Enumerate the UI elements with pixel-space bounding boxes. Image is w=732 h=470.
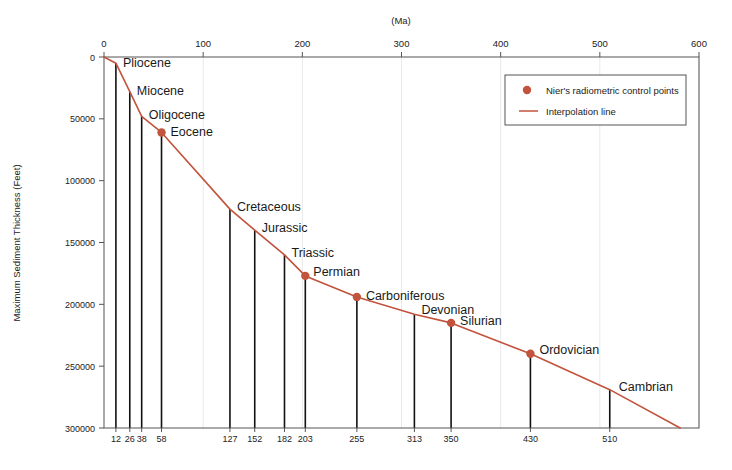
x-tick-label-bottom: 350	[444, 434, 459, 444]
chart-legend: Nier's radiometric control points Interp…	[505, 75, 686, 125]
period-label: Cretaceous	[237, 200, 301, 214]
y-tick-label: 300000	[65, 424, 95, 434]
legend-marker-dot-icon	[523, 86, 531, 94]
legend-label-control-points: Nier's radiometric control points	[546, 85, 679, 96]
control-point-marker	[447, 319, 455, 327]
legend-box	[505, 75, 686, 125]
period-label: Cambrian	[619, 380, 673, 394]
x-tick-label-bottom: 12	[111, 434, 121, 444]
y-tick-label: 50000	[70, 114, 95, 124]
period-label: Jurassic	[262, 221, 308, 235]
x-tick-label-bottom: 182	[277, 434, 292, 444]
x-axis-unit-label: (Ma)	[391, 15, 411, 26]
chart-background	[0, 0, 732, 470]
chart-svg: (Ma) Maximum Sediment Thickness (Feet) 0…	[0, 0, 732, 470]
y-tick-label: 150000	[65, 238, 95, 248]
period-label: Carboniferous	[366, 289, 445, 303]
control-point-marker	[353, 293, 361, 301]
period-label: Permian	[313, 265, 360, 279]
x-tick-label-bottom: 58	[157, 434, 167, 444]
x-tick-label-bottom: 203	[298, 434, 313, 444]
y-tick-label: 200000	[65, 300, 95, 310]
control-point-marker	[301, 272, 309, 280]
x-tick-label-bottom: 26	[125, 434, 135, 444]
period-label: Ordovician	[539, 343, 599, 357]
x-tick-label-top: 400	[493, 38, 509, 49]
y-tick-label: 250000	[65, 362, 95, 372]
y-axis-title: Maximum Sediment Thickness (Feet)	[11, 164, 22, 321]
legend-label-interpolation-line: Interpolation line	[546, 106, 616, 117]
x-tick-label-bottom: 510	[602, 434, 617, 444]
period-label: Silurian	[460, 314, 502, 328]
y-tick-label: 100000	[65, 176, 95, 186]
period-label: Pliocene	[123, 56, 171, 70]
x-tick-label-top: 200	[294, 38, 310, 49]
x-tick-label-top: 600	[691, 38, 707, 49]
y-tick-label: 0	[90, 53, 95, 63]
x-tick-label-top: 100	[195, 38, 211, 49]
x-tick-label-top: 0	[101, 38, 106, 49]
period-label: Oligocene	[149, 108, 205, 122]
period-label: Triassic	[291, 246, 334, 260]
period-label: Miocene	[137, 84, 184, 98]
x-tick-label-top: 300	[394, 38, 410, 49]
x-tick-label-bottom: 127	[222, 434, 237, 444]
x-tick-label-bottom: 430	[523, 434, 538, 444]
x-tick-label-top: 500	[592, 38, 608, 49]
sediment-thickness-chart: (Ma) Maximum Sediment Thickness (Feet) 0…	[0, 0, 732, 470]
control-point-marker	[526, 350, 534, 358]
x-tick-label-bottom: 38	[137, 434, 147, 444]
period-label: Eocene	[171, 125, 213, 139]
x-tick-label-bottom: 255	[349, 434, 364, 444]
control-point-marker	[157, 128, 165, 136]
x-tick-label-bottom: 152	[247, 434, 262, 444]
x-tick-label-bottom: 313	[407, 434, 422, 444]
